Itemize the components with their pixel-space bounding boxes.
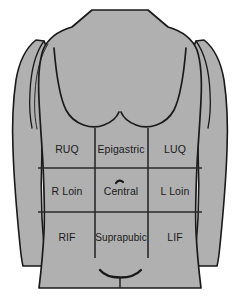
region-label-rif: RIF [58, 231, 75, 243]
region-label-lif: LIF [167, 231, 182, 243]
region-label-central: Central [104, 185, 139, 197]
region-label-l-loin: L Loin [161, 185, 190, 197]
torso-illustration: RUQ Epigastric LUQ R Loin Central L Loin… [0, 0, 240, 301]
region-label-r-loin: R Loin [52, 185, 83, 197]
abdominal-regions-diagram: RUQ Epigastric LUQ R Loin Central L Loin… [0, 0, 240, 301]
region-label-epigastric: Epigastric [97, 143, 144, 155]
region-label-luq: LUQ [164, 143, 186, 155]
region-label-suprapubic: Suprapubic [95, 232, 147, 243]
region-label-ruq: RUQ [55, 143, 79, 155]
